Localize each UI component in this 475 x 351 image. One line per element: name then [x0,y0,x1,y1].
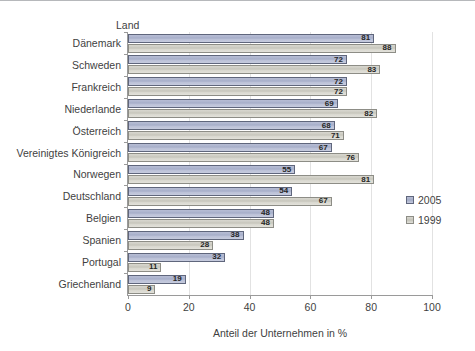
bar-value-label: 83 [367,66,376,74]
bar-value-label: 71 [331,132,340,140]
bar-1999: 83 [128,65,380,74]
bar-row: Portugal3211 [128,251,432,273]
bar-row: Griechenland199 [128,273,432,295]
y-axis-title: Land [116,19,139,31]
category-label: Belgien [86,212,121,224]
bar-2005: 19 [128,275,186,284]
bar-value-label: 48 [261,219,270,227]
bar-2005: 69 [128,99,338,108]
legend-swatch-icon [406,196,414,204]
x-axis-tick-label: 40 [244,301,256,313]
bar-row: Belgien4848 [128,207,432,229]
bar-value-label: 76 [346,154,355,162]
bar-row: Frankreich7272 [128,76,432,98]
bar-value-label: 9 [147,285,151,293]
bar-2005: 38 [128,231,244,240]
x-axis-tick-label: 0 [125,301,131,313]
bar-value-label: 19 [173,275,182,283]
legend-label: 1999 [418,214,441,226]
legend-item-2005[interactable]: 2005 [406,194,441,206]
bar-value-label: 67 [319,197,328,205]
bar-2005: 32 [128,253,225,262]
bar-1999: 82 [128,109,377,118]
x-axis-tick [432,295,433,299]
bar-row: Spanien3828 [128,229,432,251]
category-label: Schweden [72,59,121,71]
bar-row: Niederlande6982 [128,98,432,120]
bar-value-label: 72 [334,88,343,96]
bar-1999: 71 [128,131,344,140]
value-axis-line [127,295,432,296]
bar-2005: 81 [128,34,374,43]
bar-value-label: 32 [212,253,221,261]
legend-item-1999[interactable]: 1999 [406,214,441,226]
bar-value-label: 55 [282,166,291,174]
bar-1999: 88 [128,44,396,53]
bar-value-label: 28 [200,241,209,249]
bar-2005: 72 [128,55,347,64]
x-axis-tick [189,295,190,299]
bar-2005: 48 [128,209,274,218]
bar-row: Vereinigtes Königreich6776 [128,142,432,164]
category-label: Norwegen [73,168,121,180]
bar-2005: 54 [128,187,292,196]
bar-2005: 68 [128,121,335,130]
category-label: Spanien [82,234,121,246]
plot-area: Dänemark8188Schweden7283Frankreich7272Ni… [128,32,432,295]
bar-1999: 48 [128,219,274,228]
gridline [432,32,433,295]
x-axis-tick-label: 80 [365,301,377,313]
bar-value-label: 82 [364,110,373,118]
bar-value-label: 67 [319,144,328,152]
legend-swatch-icon [406,216,414,224]
bar-1999: 76 [128,153,359,162]
category-label: Griechenland [59,278,121,290]
x-axis-tick-label: 60 [305,301,317,313]
bar-1999: 9 [128,285,155,294]
x-axis-tick-label: 20 [183,301,195,313]
bar-value-label: 48 [261,209,270,217]
x-axis-tick-label: 100 [423,301,441,313]
bar-value-label: 88 [383,44,392,52]
category-label: Niederlande [64,103,121,115]
category-label: Portugal [82,256,121,268]
chart-container: Land Dänemark8188Schweden7283Frankreich7… [0,0,475,351]
category-label: Dänemark [73,37,121,49]
bar-row: Deutschland5467 [128,185,432,207]
x-axis-tick [128,295,129,299]
x-axis-tick [250,295,251,299]
x-axis-tick [310,295,311,299]
category-label: Frankreich [71,81,121,93]
bar-value-label: 38 [231,231,240,239]
x-axis-title: Anteil der Unternehmen in % [128,327,432,339]
bar-2005: 67 [128,143,332,152]
bar-1999: 81 [128,175,374,184]
bar-row: Norwegen5581 [128,164,432,186]
bar-1999: 28 [128,241,213,250]
bar-value-label: 69 [325,100,334,108]
bar-value-label: 81 [361,34,370,42]
bar-value-label: 72 [334,56,343,64]
bar-1999: 72 [128,87,347,96]
chart-legend: 20051999 [406,194,441,234]
bar-value-label: 54 [279,187,288,195]
bar-value-label: 72 [334,78,343,86]
bar-2005: 72 [128,77,347,86]
category-label: Österreich [73,125,121,137]
bar-1999: 11 [128,263,161,272]
bar-row: Schweden7283 [128,54,432,76]
bar-1999: 67 [128,197,332,206]
bar-2005: 55 [128,165,295,174]
category-label: Deutschland [63,190,121,202]
legend-label: 2005 [418,194,441,206]
category-label: Vereinigtes Königreich [17,147,121,159]
x-axis-tick [371,295,372,299]
bar-row: Dänemark8188 [128,32,432,54]
bar-value-label: 68 [322,122,331,130]
bar-value-label: 81 [361,176,370,184]
bar-row: Österreich6871 [128,120,432,142]
bar-value-label: 11 [149,263,157,271]
